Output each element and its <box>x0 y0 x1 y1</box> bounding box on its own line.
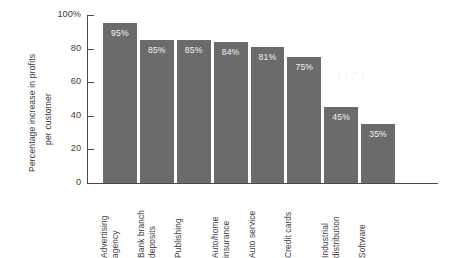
bar: 81% <box>251 47 285 183</box>
x-axis-line <box>87 183 438 184</box>
bar: 85% <box>177 40 211 183</box>
x-axis-category-label-line: deposits <box>147 226 157 258</box>
bar-chart-figure: Percentage increase in profits per custo… <box>0 0 449 258</box>
y-axis-tick-label: 60 <box>71 77 81 86</box>
x-axis-category-label: Auto/homeinsurance <box>214 186 248 258</box>
x-axis-category-label: Auto service <box>251 186 285 258</box>
bar-value-label: 35% <box>361 129 395 139</box>
x-axis-category-labels: AdvertisingagencyBank branchdepositsPubl… <box>88 186 438 258</box>
x-axis-category-label-line: Auto/home <box>210 217 220 258</box>
x-axis-category-label-line: Publishing <box>173 218 183 258</box>
y-axis-tick-label: 40 <box>71 111 81 120</box>
y-axis-tick <box>88 183 94 184</box>
bar: 45% <box>324 107 358 183</box>
y-axis-tick-label: 80 <box>71 44 81 53</box>
bar: 85% <box>140 40 174 183</box>
bar: 75% <box>287 57 321 183</box>
x-axis-category-label-line: insurance <box>221 221 231 258</box>
plot-area: 95%85%85%84%81%75%45%35% <box>88 15 438 183</box>
bar-value-label: 81% <box>251 52 285 62</box>
bar-value-label: 84% <box>214 47 248 57</box>
x-axis-category-label-line: Industrial <box>320 223 330 258</box>
bar: 84% <box>214 42 248 183</box>
y-axis-title-line-1: Percentage increase in profits <box>27 54 37 172</box>
x-axis-category-label: Software <box>361 186 395 258</box>
y-axis-title-line-2: per customer <box>43 93 53 145</box>
x-axis-category-label-line: Software <box>357 224 367 258</box>
x-axis-category-label: Publishing <box>177 186 211 258</box>
bar-value-label: 45% <box>324 112 358 122</box>
x-axis-category-label-line: Credit cards <box>283 212 293 258</box>
y-axis-tick-label: 20 <box>71 144 81 153</box>
bar: 95% <box>103 23 137 183</box>
bar: 35% <box>361 124 395 183</box>
x-axis-category-label: Advertisingagency <box>103 186 137 258</box>
bar-value-label: 85% <box>177 45 211 55</box>
y-axis-tick-label: 100% <box>58 10 82 19</box>
bar-value-label: 95% <box>103 28 137 38</box>
x-axis-category-label-line: Bank branch <box>136 210 146 258</box>
x-axis-category-label-line: distribution <box>331 216 341 258</box>
x-axis-category-label-line: agency <box>110 230 120 258</box>
x-axis-category-label: Industrialdistribution <box>324 186 358 258</box>
x-axis-category-label: Bank branchdeposits <box>140 186 174 258</box>
x-axis-category-label: Credit cards <box>287 186 321 258</box>
y-axis-title: Percentage increase in profits per custo… <box>0 0 60 190</box>
x-axis-category-label-line: Auto service <box>247 211 257 258</box>
y-axis-tick-label: 0 <box>76 178 81 187</box>
x-axis-category-label-line: Advertising <box>99 215 109 258</box>
bar-value-label: 75% <box>287 62 321 72</box>
bar-value-label: 85% <box>140 45 174 55</box>
